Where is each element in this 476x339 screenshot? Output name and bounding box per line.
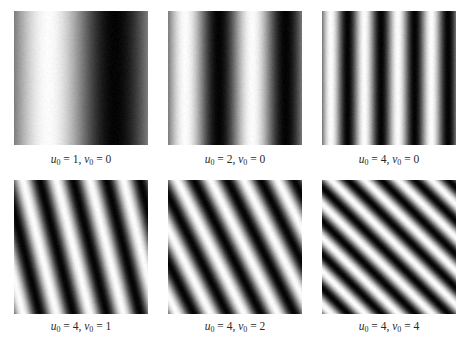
panel-caption: u0 = 1, v0 = 0: [0, 153, 168, 166]
v-value: = 0: [93, 153, 111, 165]
u-value: = 4,: [368, 153, 392, 165]
sinusoid-image: [14, 180, 148, 314]
panel-caption: u0 = 4, v0 = 0: [302, 153, 476, 166]
sinusoid-image: [322, 180, 456, 314]
v-value: = 1: [93, 320, 111, 332]
v-value: = 4: [401, 320, 419, 332]
panel-caption: u0 = 4, v0 = 4: [302, 320, 476, 333]
u-value: = 2,: [214, 153, 238, 165]
v-value: = 0: [247, 153, 265, 165]
sinusoid-panel-u2-v0: u0 = 2, v0 = 0: [168, 11, 302, 145]
sinusoid-image: [322, 11, 456, 145]
v-value: = 0: [401, 153, 419, 165]
sinusoid-panel-u4-v0: u0 = 4, v0 = 0: [322, 11, 456, 145]
u-value: = 4,: [214, 320, 238, 332]
u-value: = 1,: [60, 153, 84, 165]
sinusoid-panel-u4-v1: u0 = 4, v0 = 1: [14, 180, 148, 314]
u-value: = 4,: [60, 320, 84, 332]
sinusoid-image: [14, 11, 148, 145]
sinusoid-image: [168, 180, 302, 314]
sinusoid-figure-grid: u0 = 1, v0 = 0 u0 = 2, v0 = 0 u0 = 4, v0…: [0, 0, 476, 339]
panel-caption: u0 = 4, v0 = 1: [0, 320, 168, 333]
panel-caption: u0 = 2, v0 = 0: [148, 153, 322, 166]
sinusoid-panel-u4-v2: u0 = 4, v0 = 2: [168, 180, 302, 314]
u-value: = 4,: [368, 320, 392, 332]
sinusoid-panel-u1-v0: u0 = 1, v0 = 0: [14, 11, 148, 145]
sinusoid-panel-u4-v4: u0 = 4, v0 = 4: [322, 180, 456, 314]
v-value: = 2: [247, 320, 265, 332]
sinusoid-image: [168, 11, 302, 145]
panel-caption: u0 = 4, v0 = 2: [148, 320, 322, 333]
